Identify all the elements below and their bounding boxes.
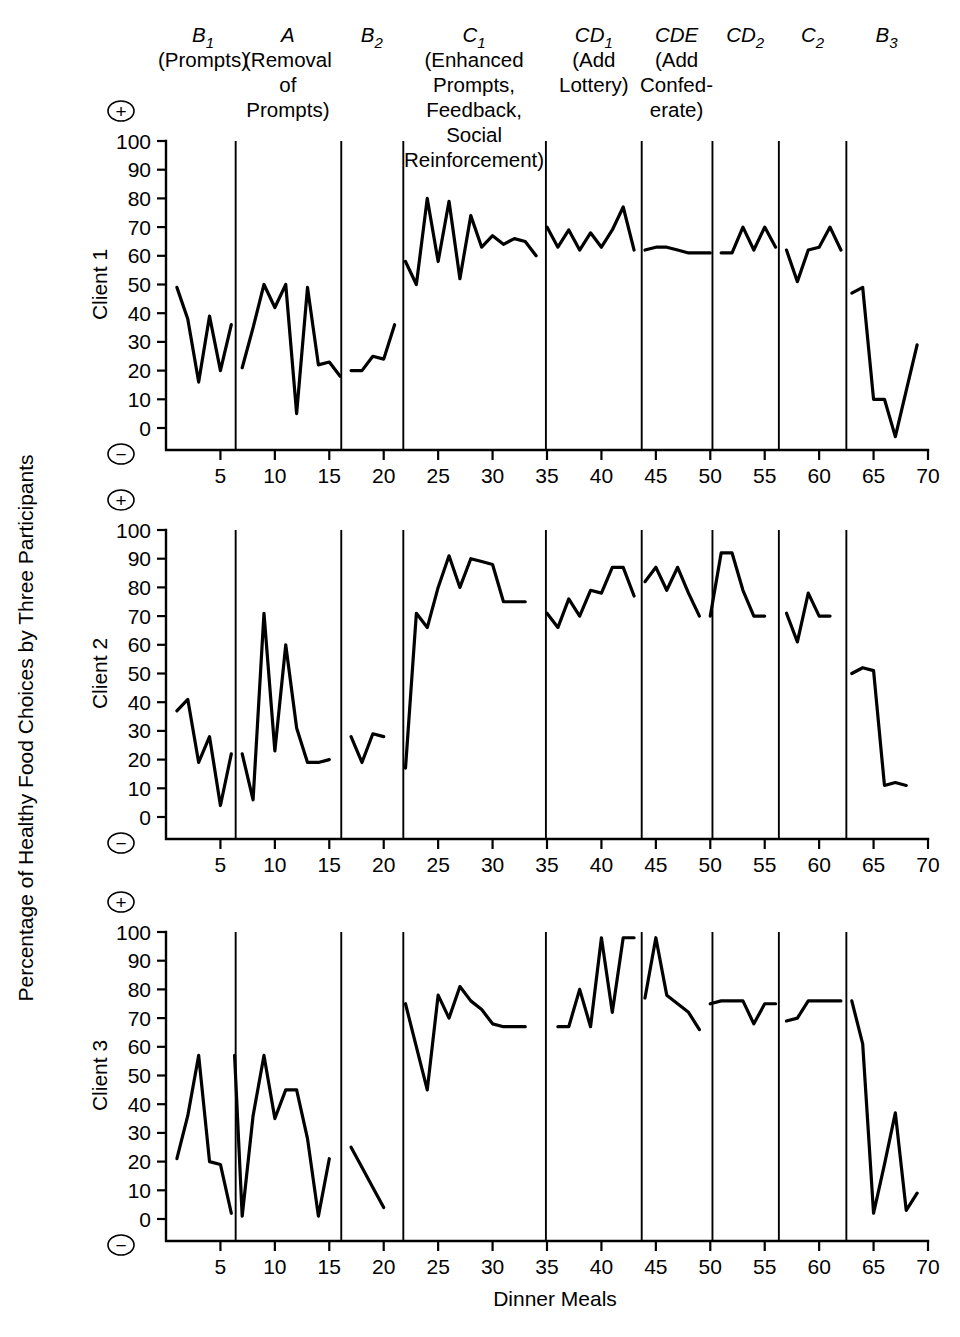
x-tick-label: 10 <box>263 853 286 876</box>
x-tick-label: 5 <box>215 1255 227 1278</box>
x-tick-label: 40 <box>590 1255 613 1278</box>
x-tick-label: 55 <box>753 464 776 487</box>
x-tick-label: 65 <box>862 853 885 876</box>
figure-root: B1(Prompts)A(RemovalofPrompts)B2C1(Enhan… <box>0 0 960 1337</box>
y-tick-label: 0 <box>139 806 151 829</box>
panel-label-client-1: Client 1 <box>88 249 111 320</box>
y-tick-label: 50 <box>128 273 151 296</box>
x-tick-label: 20 <box>372 464 395 487</box>
x-tick-label: 10 <box>263 464 286 487</box>
y-tick-label: 40 <box>128 1093 151 1116</box>
minus-sign-icon: − <box>115 833 126 854</box>
x-tick-label: 45 <box>644 464 667 487</box>
y-tick-label: 80 <box>128 187 151 210</box>
x-tick-label: 20 <box>372 1255 395 1278</box>
panel-label-client-2: Client 2 <box>88 638 111 709</box>
y-tick-label: 60 <box>128 633 151 656</box>
y-tick-label: 80 <box>128 576 151 599</box>
phase-label-a: A <box>279 23 295 46</box>
plus-sign-icon: + <box>115 101 126 122</box>
y-tick-label: 90 <box>128 158 151 181</box>
x-tick-label: 40 <box>590 464 613 487</box>
x-tick-label: 60 <box>807 853 830 876</box>
x-tick-label: 30 <box>481 464 504 487</box>
y-tick-label: 70 <box>128 1007 151 1030</box>
y-tick-label: 10 <box>128 388 151 411</box>
y-tick-label: 0 <box>139 417 151 440</box>
x-tick-label: 20 <box>372 853 395 876</box>
plus-sign-icon: + <box>115 892 126 913</box>
x-tick-label: 30 <box>481 1255 504 1278</box>
minus-sign-icon: − <box>115 444 126 465</box>
phase-desc-cd1-1: Lottery) <box>559 73 629 96</box>
plus-sign-icon: + <box>115 490 126 511</box>
x-tick-label: 10 <box>263 1255 286 1278</box>
y-tick-label: 60 <box>128 1035 151 1058</box>
phase-desc-c1-3: Social <box>446 123 502 146</box>
phase-desc-cde-1: Confed- <box>640 73 713 96</box>
minus-sign-icon: − <box>115 1235 126 1256</box>
phase-desc-cd1-0: (Add <box>572 48 615 71</box>
phase-label-cde: CDE <box>655 23 699 46</box>
x-tick-label: 55 <box>753 853 776 876</box>
y-tick-label: 50 <box>128 1064 151 1087</box>
phase-desc-cde-2: erate) <box>650 98 704 121</box>
y-tick-label: 10 <box>128 1179 151 1202</box>
y-tick-label: 80 <box>128 978 151 1001</box>
phase-desc-b1-0: (Prompts) <box>158 48 248 71</box>
x-tick-label: 35 <box>535 1255 558 1278</box>
y-tick-label: 0 <box>139 1208 151 1231</box>
x-tick-label: 30 <box>481 853 504 876</box>
x-tick-label: 15 <box>318 1255 341 1278</box>
phase-desc-c1-4: Reinforcement) <box>404 148 544 171</box>
y-tick-label: 50 <box>128 662 151 685</box>
y-tick-label: 90 <box>128 547 151 570</box>
y-tick-label: 20 <box>128 748 151 771</box>
x-tick-label: 5 <box>215 464 227 487</box>
x-tick-label: 70 <box>916 464 939 487</box>
x-tick-label: 55 <box>753 1255 776 1278</box>
x-tick-label: 60 <box>807 1255 830 1278</box>
x-tick-label: 50 <box>699 1255 722 1278</box>
x-tick-label: 25 <box>426 853 449 876</box>
x-axis-title: Dinner Meals <box>493 1287 617 1310</box>
x-tick-label: 70 <box>916 853 939 876</box>
phase-desc-a-1: of <box>279 73 296 96</box>
y-axis-title-group: Percentage of Healthy Food Choices by Th… <box>14 454 37 1001</box>
x-tick-label: 35 <box>535 464 558 487</box>
y-tick-label: 10 <box>128 777 151 800</box>
x-tick-label: 40 <box>590 853 613 876</box>
y-tick-label: 30 <box>128 719 151 742</box>
y-tick-label: 60 <box>128 244 151 267</box>
x-tick-label: 35 <box>535 853 558 876</box>
y-tick-label: 100 <box>116 519 151 542</box>
y-tick-label: 100 <box>116 921 151 944</box>
y-tick-label: 30 <box>128 1121 151 1144</box>
y-axis-title: Percentage of Healthy Food Choices by Th… <box>14 454 37 1001</box>
x-tick-label: 50 <box>699 464 722 487</box>
phase-desc-c1-2: Feedback, <box>426 98 522 121</box>
y-tick-label: 70 <box>128 216 151 239</box>
panel-label-client-3: Client 3 <box>88 1040 111 1111</box>
phase-desc-a-2: Prompts) <box>246 98 329 121</box>
phase-desc-c1-0: (Enhanced <box>424 48 523 71</box>
x-tick-label: 15 <box>318 464 341 487</box>
y-tick-label: 20 <box>128 359 151 382</box>
y-tick-label: 70 <box>128 605 151 628</box>
x-tick-label: 65 <box>862 1255 885 1278</box>
x-tick-label: 45 <box>644 853 667 876</box>
y-tick-label: 40 <box>128 691 151 714</box>
x-tick-label: 5 <box>215 853 227 876</box>
y-tick-label: 20 <box>128 1150 151 1173</box>
y-tick-label: 30 <box>128 330 151 353</box>
y-tick-label: 40 <box>128 302 151 325</box>
phase-desc-cde-0: (Add <box>655 48 698 71</box>
x-tick-label: 25 <box>426 1255 449 1278</box>
x-tick-label: 60 <box>807 464 830 487</box>
phase-desc-a-0: (Removal <box>244 48 332 71</box>
x-tick-label: 50 <box>699 853 722 876</box>
x-tick-label: 25 <box>426 464 449 487</box>
x-tick-label: 70 <box>916 1255 939 1278</box>
x-tick-label: 65 <box>862 464 885 487</box>
x-tick-label: 45 <box>644 1255 667 1278</box>
